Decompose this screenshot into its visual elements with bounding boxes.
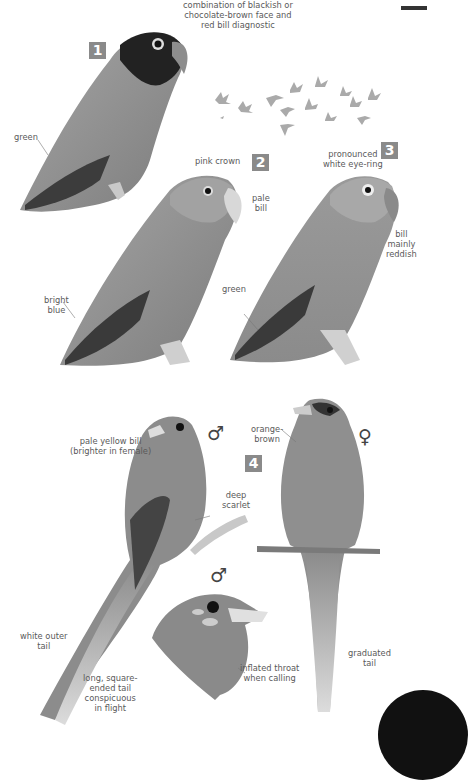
label-pink-crown: pink crown: [195, 156, 240, 166]
label-long-square-tail: long, square- ended tail conspicuous in …: [83, 673, 137, 713]
flock-illustration: [215, 76, 381, 136]
corner-thumb-tab: [378, 690, 468, 780]
plate-number-3: 3: [381, 142, 398, 159]
male-symbol-head: ♂: [210, 566, 227, 585]
label-inflated-throat: inflated throat when calling: [240, 663, 299, 683]
plate-number-1: 1: [89, 42, 106, 59]
trogon-head-illustration: [152, 594, 268, 700]
female-symbol: ♀: [358, 427, 372, 446]
label-eye-ring: pronounced white eye-ring: [323, 149, 383, 169]
label-deep-scarlet: deep scarlet: [222, 490, 250, 510]
label-pale-bill: pale bill: [252, 193, 270, 213]
male-symbol: ♂: [207, 424, 224, 443]
page-edge-marker: [401, 6, 427, 10]
label-orange-brown: orange- brown: [251, 424, 283, 444]
label-graduated-tail: graduated tail: [348, 648, 391, 668]
lovebird-1-illustration: [20, 32, 188, 211]
label-bill-reddish: bill mainly reddish: [386, 229, 417, 259]
label-green-1: green: [14, 132, 38, 142]
label-pale-yellow-bill: pale yellow bill (brighter in female): [70, 436, 151, 456]
plate-number-4: 4: [245, 455, 262, 472]
label-face-diagnostic: combination of blackish or chocolate-bro…: [183, 0, 293, 30]
plate-number-2: 2: [252, 154, 269, 171]
label-white-outer-tail: white outer tail: [20, 631, 67, 651]
label-green-3: green: [222, 284, 246, 294]
label-bright-blue: bright blue: [44, 295, 69, 315]
